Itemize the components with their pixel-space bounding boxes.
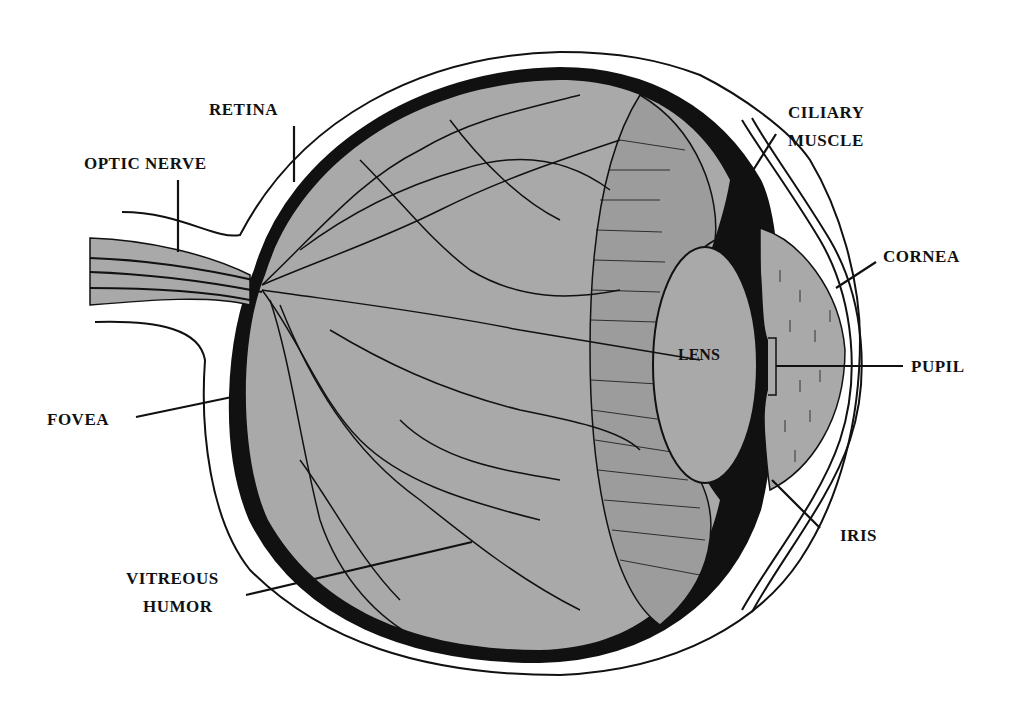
label-ciliary-2: MUSCLE bbox=[788, 131, 864, 150]
label-fovea: FOVEA bbox=[47, 410, 109, 429]
leader-fovea bbox=[136, 397, 232, 417]
label-ciliary-1: CILIARY bbox=[788, 103, 865, 122]
eye-diagram: RETINA OPTIC NERVE CILIARY MUSCLE CORNEA… bbox=[0, 0, 1030, 719]
leader-iris bbox=[772, 480, 820, 528]
cornea bbox=[760, 228, 845, 490]
lens bbox=[653, 247, 757, 483]
label-iris: IRIS bbox=[840, 526, 877, 545]
label-pupil: PUPIL bbox=[911, 357, 965, 376]
label-retina: RETINA bbox=[209, 100, 278, 119]
label-vitreous-2: HUMOR bbox=[143, 597, 213, 616]
label-vitreous-1: VITREOUS bbox=[126, 569, 219, 588]
label-lens: LENS bbox=[678, 346, 720, 363]
label-optic-nerve: OPTIC NERVE bbox=[84, 154, 207, 173]
label-cornea: CORNEA bbox=[883, 247, 960, 266]
